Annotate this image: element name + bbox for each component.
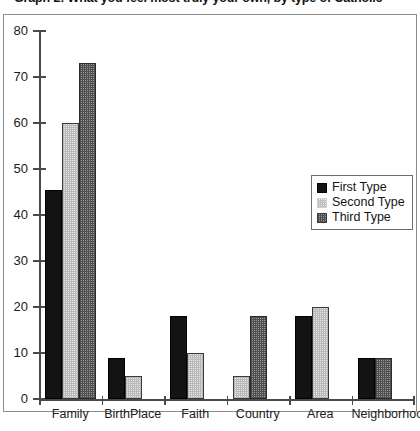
y-axis-tick-label: 10: [0, 346, 28, 359]
bar-faith-first-type: [170, 316, 187, 399]
x-axis-tick-label: Neighborhood: [352, 407, 415, 421]
legend-item-label: Third Type: [332, 211, 391, 224]
bar-family-first-type: [45, 190, 62, 399]
legend-swatch-icon: [317, 183, 327, 193]
legend-item-first-type: First Type: [317, 180, 405, 195]
x-axis-tick-label: BirthPlace: [102, 407, 165, 421]
bar-family-third-type: [79, 63, 96, 399]
y-axis-tick-label: 60: [0, 116, 28, 129]
x-axis-tick-label: Faith: [164, 407, 227, 421]
y-axis-tick-label: 30: [0, 254, 28, 267]
bar-chart: Graph 2: What you feel most truly your o…: [0, 0, 420, 431]
legend-item-third-type: Third Type: [317, 210, 405, 225]
y-axis-tick-label: 50: [0, 162, 28, 175]
bar-neighborhood-third-type: [375, 358, 392, 399]
bar-area-second-type: [312, 307, 329, 399]
bar-neighborhood-first-type: [358, 358, 375, 399]
bar-birthplace-second-type: [125, 376, 142, 399]
y-axis-tick-label: 80: [0, 24, 28, 37]
chart-title: Graph 2: What you feel most truly your o…: [14, 0, 414, 5]
bar-family-second-type: [62, 123, 79, 399]
legend-item-second-type: Second Type: [317, 195, 405, 210]
x-axis-tick-label: Area: [289, 407, 352, 421]
bar-faith-second-type: [187, 353, 204, 399]
legend-item-label: First Type: [332, 181, 387, 194]
bar-country-third-type: [250, 316, 267, 399]
y-axis-tick-label: 0: [0, 392, 28, 405]
legend-swatch-icon: [317, 213, 327, 223]
x-axis-tick-label: Country: [227, 407, 290, 421]
y-axis-tick-label: 40: [0, 208, 28, 221]
x-axis-tick-label: Family: [39, 407, 102, 421]
bar-area-first-type: [295, 316, 312, 399]
y-axis-tick-label: 70: [0, 70, 28, 83]
legend-item-label: Second Type: [332, 196, 405, 209]
legend-swatch-icon: [317, 198, 327, 208]
bar-country-second-type: [233, 376, 250, 399]
chart-legend: First TypeSecond TypeThird Type: [311, 175, 413, 230]
bar-birthplace-first-type: [108, 358, 125, 399]
y-axis-tick-label: 20: [0, 300, 28, 313]
